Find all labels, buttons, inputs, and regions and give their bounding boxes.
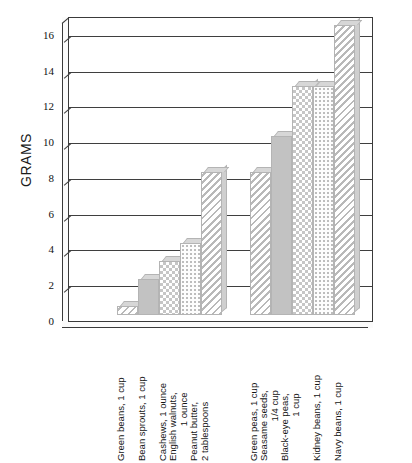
bar-front-face bbox=[117, 306, 138, 315]
bar-side-face bbox=[355, 18, 360, 312]
y-axis-tick-label: 4 bbox=[28, 243, 54, 255]
bar bbox=[138, 279, 159, 315]
bar-front-face bbox=[334, 25, 355, 315]
x-axis-category-label: Seasame seeds,1/4 cup bbox=[258, 390, 280, 461]
bar-front-face bbox=[159, 261, 180, 315]
x-axis-category-label: Navy beans, 1 cup bbox=[332, 382, 343, 461]
y-axis-tick-label: 10 bbox=[28, 136, 54, 148]
y-axis-tick-label: 14 bbox=[28, 65, 54, 77]
bar-front-face bbox=[138, 279, 159, 315]
bars-layer bbox=[75, 18, 372, 315]
bar bbox=[334, 25, 355, 315]
bar bbox=[271, 136, 292, 315]
bar-side-face bbox=[222, 165, 227, 312]
y-axis-tick-label: 0 bbox=[28, 315, 54, 327]
bar-front-face bbox=[201, 172, 222, 315]
x-axis-tick-labels: Green beans, 1 cupBean sprouts, 1 cupCas… bbox=[62, 330, 382, 463]
bar bbox=[201, 172, 222, 315]
chart-floor bbox=[62, 321, 373, 328]
plot-face bbox=[68, 17, 373, 322]
y-axis-tick-label: 6 bbox=[28, 208, 54, 220]
bar bbox=[180, 243, 201, 315]
bar bbox=[159, 261, 180, 315]
y-axis-title: GRAMS bbox=[18, 115, 34, 205]
y-axis-tick-label: 16 bbox=[28, 29, 54, 41]
bar-front-face bbox=[250, 172, 271, 315]
y-axis-tick-label: 2 bbox=[28, 279, 54, 291]
bar-top-face bbox=[204, 167, 229, 172]
x-axis-category-label: Peanut butter,2 tablespoons bbox=[188, 402, 210, 461]
bar bbox=[250, 172, 271, 315]
bar-chart: GRAMS 1614121086420 Green beans, 1 cupBe… bbox=[0, 0, 412, 463]
bar-front-face bbox=[271, 136, 292, 315]
x-axis-category-label: Kidney beans, 1 cup bbox=[311, 375, 322, 461]
x-axis-category-label: Black-eye peas,1 cup bbox=[279, 393, 301, 461]
bar bbox=[292, 86, 313, 315]
x-axis-category-label: Green beans, 1 cup bbox=[115, 378, 126, 461]
x-axis-category-label: Bean sprouts, 1 cup bbox=[136, 377, 147, 462]
x-axis-category-label: English walnuts,1 ounce bbox=[167, 392, 189, 461]
bar bbox=[117, 306, 138, 315]
bar-front-face bbox=[180, 243, 201, 315]
plot-area bbox=[62, 17, 373, 328]
y-axis-tick-label: 8 bbox=[28, 172, 54, 184]
bar-front-face bbox=[292, 86, 313, 315]
bar-front-face bbox=[313, 86, 334, 315]
bar bbox=[313, 86, 334, 315]
y-axis-tick-label: 12 bbox=[28, 100, 54, 112]
